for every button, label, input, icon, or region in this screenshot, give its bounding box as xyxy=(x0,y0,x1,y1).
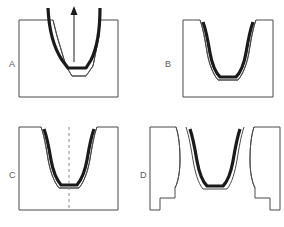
figure-container: A B C xyxy=(0,0,284,227)
panel-label-a: A xyxy=(9,59,15,69)
panel-label-c: C xyxy=(9,170,16,180)
forming-stages-diagram: A B C xyxy=(0,0,284,227)
die-half-right-d xyxy=(250,127,280,210)
die-half-left-d xyxy=(150,127,180,210)
panel-label-b: B xyxy=(165,59,171,69)
panel-label-d: D xyxy=(140,170,147,180)
